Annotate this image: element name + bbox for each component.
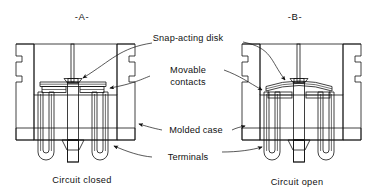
center-terminal-b	[288, 140, 310, 162]
panel-label-b: -B-	[288, 11, 302, 22]
center-terminal-a	[62, 140, 84, 162]
cavity-walls-b	[260, 44, 343, 95]
leader-snap-disk-b	[243, 42, 285, 80]
molded-case-right-a	[117, 44, 135, 140]
leader-terminals-b	[222, 147, 262, 152]
panel-b-assembly	[242, 44, 361, 162]
center-stem-b	[294, 44, 305, 162]
molded-case-left-b	[242, 44, 260, 140]
callout-snap-acting-disk: Snap-acting disk	[153, 33, 224, 43]
leader-case-a	[139, 124, 162, 130]
callout-terminals: Terminals	[168, 152, 209, 162]
callout-molded-case: Molded case	[169, 125, 223, 135]
snap-acting-disk-b	[266, 81, 332, 91]
leader-contacts-b	[224, 70, 262, 90]
caption-panel-a: Circuit closed	[52, 175, 111, 185]
center-stem-a	[68, 44, 79, 162]
molded-case-core-a	[34, 95, 117, 140]
leader-snap-disk-a	[83, 43, 152, 78]
switch-diagram: -A- -B- Snap-acting disk Movable contact…	[0, 0, 377, 191]
molded-case-right-b	[343, 44, 361, 140]
panel-a-assembly	[16, 44, 135, 162]
molded-case-core-b	[260, 95, 343, 140]
leader-terminals-a	[114, 146, 152, 157]
cavity-walls-a	[34, 44, 117, 95]
panel-label-a: -A-	[75, 11, 89, 22]
molded-case-left-a	[16, 44, 34, 140]
figure-canvas: -A- -B- Snap-acting disk Movable contact…	[0, 0, 377, 191]
caption-panel-b: Circuit open	[271, 177, 324, 187]
callout-movable-contacts-line1: Movable	[170, 65, 206, 75]
callout-movable-contacts-line2: contacts	[170, 77, 206, 87]
